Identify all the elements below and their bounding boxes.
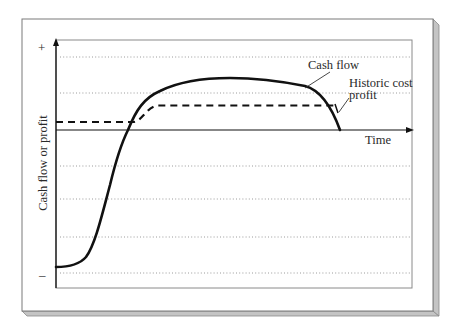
- chart-svg: Cash flow Historic cost profit Time + – …: [0, 0, 461, 334]
- y-axis-label: Cash flow or profit: [36, 115, 50, 211]
- cash-flow-label: Cash flow: [308, 58, 359, 72]
- figure: Cash flow Historic cost profit Time + – …: [0, 0, 461, 334]
- x-axis-label: Time: [365, 133, 391, 147]
- historic-cost-label-line2: profit: [349, 88, 377, 102]
- y-positive-marker: +: [38, 40, 45, 55]
- y-negative-marker: –: [38, 267, 46, 282]
